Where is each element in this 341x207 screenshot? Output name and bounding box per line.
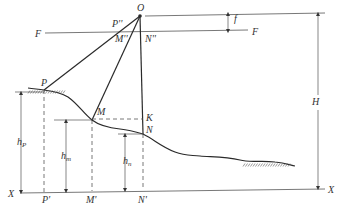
label-p1: P' bbox=[41, 194, 51, 205]
ground-hatch bbox=[251, 164, 253, 167]
ground-hatch bbox=[46, 91, 48, 94]
ground-hatch bbox=[278, 164, 280, 167]
ground-hatch bbox=[263, 164, 265, 167]
ground-hatch bbox=[266, 164, 268, 167]
label-f_right: F bbox=[251, 26, 259, 37]
ground-hatch bbox=[63, 91, 65, 94]
label-k: K bbox=[145, 112, 154, 123]
label-p: P bbox=[40, 77, 47, 88]
ground-hatch bbox=[276, 164, 278, 167]
point-o bbox=[138, 14, 142, 18]
label-m: M bbox=[96, 106, 106, 117]
dimension-arrows bbox=[15, 14, 318, 192]
ground-hatch bbox=[246, 164, 248, 167]
ground-hatch bbox=[261, 164, 263, 167]
label-m1: M' bbox=[85, 194, 97, 205]
ground-hatch bbox=[61, 91, 63, 94]
ground-hatch bbox=[273, 164, 275, 167]
diagram-canvas: OP''M''N''FFfHPMKNhPhmhnXXP'M'N' bbox=[0, 0, 341, 207]
label-m2: M'' bbox=[114, 33, 128, 44]
label-o: O bbox=[137, 2, 144, 13]
label-f_left: F bbox=[34, 28, 42, 39]
label-x_left: X bbox=[7, 188, 15, 199]
label-n: N bbox=[145, 124, 154, 135]
label-hp: hP bbox=[17, 136, 27, 149]
ground-hatch bbox=[256, 164, 258, 167]
ground-hatch bbox=[243, 164, 245, 167]
ray-o-n bbox=[140, 16, 143, 134]
ground-hatch bbox=[281, 164, 283, 167]
ground-hatch bbox=[248, 164, 250, 167]
ray-o-p bbox=[44, 16, 140, 90]
label-p2: P'' bbox=[111, 18, 123, 29]
label-n1: N' bbox=[137, 194, 148, 205]
ground-hatch bbox=[271, 164, 273, 167]
label-hn: hn bbox=[123, 155, 132, 168]
ground-hatch bbox=[268, 164, 270, 167]
label-x_right: X bbox=[327, 184, 335, 195]
ground-hatch bbox=[253, 164, 255, 167]
ground-hatch bbox=[258, 164, 260, 167]
label-h: H bbox=[311, 96, 320, 107]
label-n2: N'' bbox=[144, 33, 157, 44]
photogrammetry-diagram: OP''M''N''FFfHPMKNhPhmhnXXP'M'N' bbox=[0, 0, 341, 207]
